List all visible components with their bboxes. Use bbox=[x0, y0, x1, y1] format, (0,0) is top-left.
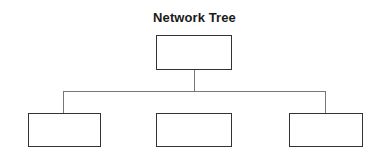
left-child-connector bbox=[63, 91, 64, 113]
diagram-title: Network Tree bbox=[0, 10, 389, 25]
root-node bbox=[156, 35, 232, 70]
root-connector-vertical bbox=[194, 70, 195, 91]
right-child-connector bbox=[325, 91, 326, 113]
child-node-middle bbox=[156, 113, 232, 147]
child-node-right bbox=[289, 113, 363, 147]
connector-horizontal bbox=[63, 91, 326, 92]
child-node-left bbox=[28, 113, 101, 147]
